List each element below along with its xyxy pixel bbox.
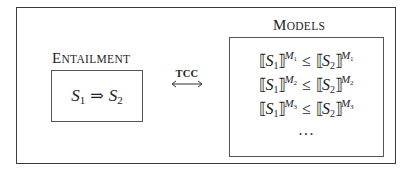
models-list: ⟦S1⟧M1≤⟦S2⟧M1 ⟦S1⟧M2≤⟦S2⟧M2 ⟦S1⟧M3≤⟦S2⟧M… xyxy=(230,43,383,115)
model-index: 2 xyxy=(294,79,298,87)
model-letter: M xyxy=(284,97,293,109)
model-letter: M xyxy=(284,49,293,61)
ellipsis: ··· xyxy=(230,126,383,142)
model-row: ⟦S1⟧M1≤⟦S2⟧M1 xyxy=(230,43,383,67)
leq-operator: ≤ xyxy=(302,100,311,117)
model-index: 3 xyxy=(350,103,354,111)
models-title-rest: ODELS xyxy=(287,20,326,32)
model-index: 1 xyxy=(294,55,298,63)
models-title: MODELS xyxy=(273,17,325,34)
model-row: ⟦S1⟧M3≤⟦S2⟧M3 xyxy=(230,91,383,115)
model-letter: M xyxy=(341,73,350,85)
model-superscript: M2 xyxy=(284,73,297,85)
formula-rhs-sub: 2 xyxy=(117,94,123,106)
model-superscript: M3 xyxy=(284,97,297,109)
model-letter: M xyxy=(341,49,350,61)
formula-lhs-var: S xyxy=(71,86,80,105)
tcc-connector: TCC xyxy=(170,68,204,88)
models-title-initial: M xyxy=(273,17,287,33)
implies-operator: ⇒ xyxy=(90,87,103,104)
row-rhs-var: S xyxy=(322,100,330,117)
bidirectional-arrow-icon xyxy=(170,80,204,88)
model-index: 1 xyxy=(350,55,354,63)
model-letter: M xyxy=(341,97,350,109)
entailment-title-rest: NTAILMENT xyxy=(61,53,130,65)
model-letter: M xyxy=(284,73,293,85)
entailment-title: ENTAILMENT xyxy=(52,50,130,67)
formula-lhs-sub: 1 xyxy=(80,94,86,106)
model-index: 2 xyxy=(350,79,354,87)
entailment-box: S1⇒S2 xyxy=(51,70,143,122)
formula-rhs-var: S xyxy=(109,86,118,105)
model-superscript: M3 xyxy=(341,97,354,109)
model-index: 3 xyxy=(294,103,298,111)
model-superscript: M2 xyxy=(341,73,354,85)
tcc-label: TCC xyxy=(170,68,204,79)
model-superscript: M1 xyxy=(284,49,297,61)
models-box: ⟦S1⟧M1≤⟦S2⟧M1 ⟦S1⟧M2≤⟦S2⟧M2 ⟦S1⟧M3≤⟦S2⟧M… xyxy=(229,37,384,157)
model-row: ⟦S1⟧M2≤⟦S2⟧M2 xyxy=(230,67,383,91)
model-superscript: M1 xyxy=(341,49,354,61)
entailment-formula: S1⇒S2 xyxy=(71,86,122,106)
